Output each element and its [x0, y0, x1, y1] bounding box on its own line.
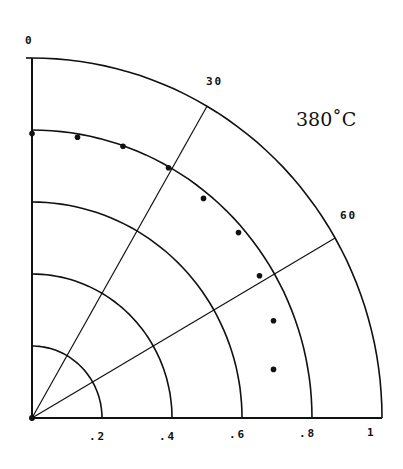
origin-marker: [29, 415, 35, 421]
spoke-30: [32, 106, 207, 418]
data-point: [201, 196, 207, 202]
angle-label-30: 30: [206, 75, 223, 88]
data-points: [29, 131, 276, 421]
data-point: [29, 131, 35, 137]
data-point: [271, 367, 277, 373]
radial-tick-0.6: .6: [229, 428, 246, 441]
radial-tick-0.4: .4: [159, 430, 176, 443]
angle-spokes: [32, 106, 335, 418]
radial-tick-0.8: .8: [299, 427, 316, 440]
radial-ring: [32, 202, 242, 418]
data-point: [236, 230, 242, 236]
data-point: [120, 143, 126, 149]
data-point: [271, 318, 277, 324]
angle-label-60: 60: [340, 209, 357, 222]
temperature-annotation: 380˚C: [296, 108, 356, 130]
radial-tick-1: 1: [367, 426, 376, 439]
data-point: [75, 134, 81, 140]
polar-plot: [0, 0, 403, 469]
radial-ring: [32, 130, 312, 418]
radial-tick-0.2: .2: [89, 430, 106, 443]
angle-label-0: 0: [25, 34, 34, 47]
data-point: [257, 273, 263, 279]
data-point: [166, 165, 172, 171]
radial-ring: [32, 274, 172, 418]
spoke-60: [32, 238, 335, 418]
